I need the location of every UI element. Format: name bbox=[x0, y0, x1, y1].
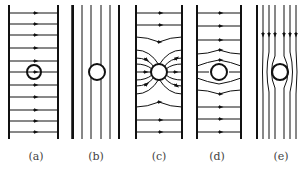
panel-d-label: (d) bbox=[197, 150, 237, 163]
panel-e-label: (e) bbox=[261, 150, 301, 163]
panel-b-label: (b) bbox=[76, 150, 116, 163]
panel-d bbox=[197, 5, 241, 139]
field-diagram bbox=[0, 0, 303, 175]
panel-e bbox=[257, 5, 297, 139]
panel-b bbox=[73, 5, 119, 139]
panel-c-label: (c) bbox=[139, 150, 179, 163]
panel-a-label: (a) bbox=[16, 150, 56, 163]
panel-a bbox=[9, 5, 72, 139]
panel-c bbox=[136, 5, 182, 139]
